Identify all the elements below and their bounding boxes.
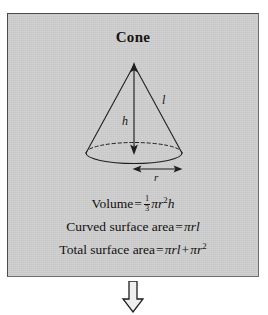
fraction-denominator: 3 [144,205,150,214]
formula-list: Volume=13πr2h Curved surface area=πrl To… [8,192,258,261]
radius-label: r [154,171,159,183]
height-variable: h [168,196,175,211]
slant-variable: l [196,219,200,234]
plus-operator: + [181,242,191,257]
cone-figure-panel: Cone l h r [7,13,259,277]
slant-variable: l [177,242,181,257]
formula-curved-surface-area: Curved surface area=πrl [8,215,258,238]
formula-tsa-label: Total surface area [59,242,155,257]
formula-total-surface-area: Total surface area=πrl+πr2 [8,238,258,261]
pi-symbol: π [190,242,197,257]
formula-csa-label: Curved surface area [66,219,174,234]
radius-exponent: 2 [202,241,206,251]
formula-volume-fraction: 13 [144,195,150,213]
formula-volume: Volume=13πr2h [8,192,258,215]
down-arrow-shape [123,281,143,312]
down-arrow-icon [119,281,147,313]
height-label: h [122,114,128,128]
pi-symbol: π [165,242,172,257]
left-slant-line [86,65,134,153]
page-title: Cone [8,29,258,46]
right-slant-line [134,65,182,153]
formula-volume-label: Volume [92,196,134,211]
pi-symbol: π [184,219,191,234]
slant-label: l [162,93,166,107]
formula-volume-equals: = [133,196,143,211]
pi-symbol: π [151,196,158,211]
formula-csa-equals: = [174,219,184,234]
formula-tsa-equals: = [155,242,165,257]
